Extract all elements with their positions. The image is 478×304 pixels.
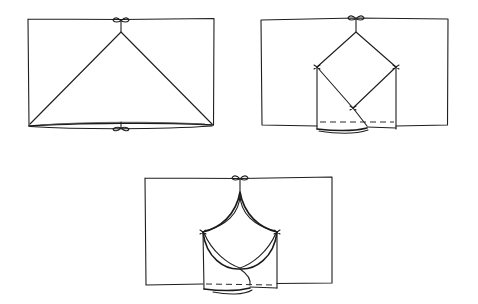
step-3-panel xyxy=(145,176,332,294)
diagram-canvas xyxy=(0,0,478,304)
step-3-fold-line xyxy=(206,284,275,285)
step-2-diamond xyxy=(317,32,396,108)
step-2-panel xyxy=(261,16,448,133)
step-1-triangle xyxy=(30,32,212,124)
step-1-panel xyxy=(28,18,214,131)
step-3-inner-panel xyxy=(203,232,277,289)
step-2-inner-panel xyxy=(317,67,396,129)
step-1-frame xyxy=(28,19,214,127)
